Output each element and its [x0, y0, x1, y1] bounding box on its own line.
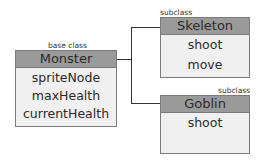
member-move: move	[161, 55, 249, 75]
member-maxhealth: maxHealth	[16, 87, 116, 105]
connector-vertical	[131, 27, 132, 104]
goblin-caption: subclass	[218, 86, 250, 95]
base-class-caption: base class	[48, 41, 87, 50]
class-name-monster: Monster	[16, 51, 116, 68]
class-name-goblin: Goblin	[161, 96, 249, 113]
member-shoot: shoot	[161, 113, 249, 133]
class-name-skeleton: Skeleton	[161, 18, 249, 35]
member-spritenode: spriteNode	[16, 69, 116, 87]
class-box-monster: Monster spriteNode maxHealth currentHeal…	[15, 50, 117, 127]
connector-skeleton	[131, 27, 160, 28]
member-currenthealth: currentHealth	[16, 105, 116, 123]
connector-goblin	[131, 103, 160, 104]
class-box-goblin: Goblin shoot	[160, 95, 250, 154]
connector-base-horizontal	[117, 59, 132, 60]
skeleton-caption: subclass	[160, 8, 192, 17]
class-box-skeleton: Skeleton shoot move	[160, 17, 250, 78]
member-shoot: shoot	[161, 35, 249, 55]
